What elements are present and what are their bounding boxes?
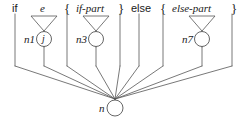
node-label-n: n	[99, 103, 105, 114]
triangle-else-part	[189, 16, 215, 31]
edge-drop-else-part	[115, 66, 202, 99]
node-inner-label-n1: j	[42, 34, 45, 44]
edge-drop-brace-4	[115, 66, 232, 99]
nonterminal-triangles	[31, 16, 215, 31]
node-circle-n	[107, 100, 123, 116]
top-label-brace-close-1: }	[118, 2, 124, 15]
edge-drop-brace-2	[115, 66, 120, 99]
converging-edge-lines	[15, 66, 232, 99]
top-label-if-keyword: if	[12, 3, 18, 14]
top-label-else-part: else-part	[172, 3, 211, 14]
top-label-brace-close-2: }	[231, 2, 237, 15]
node-circle-n7	[195, 32, 210, 47]
edge-drop-brace-1	[67, 66, 115, 99]
triangle-if-part	[83, 16, 109, 31]
top-label-brace-open-2: {	[160, 2, 166, 15]
diagram-svg	[0, 0, 248, 122]
edge-drop-if	[15, 66, 115, 99]
node-circle-n3	[89, 32, 104, 47]
edge-drop-e	[44, 66, 115, 99]
node-stem-lines	[44, 31, 202, 100]
top-label-brace-open-1: {	[64, 2, 70, 15]
top-label-if-part: if-part	[76, 3, 104, 14]
triangle-e	[31, 16, 57, 31]
node-label-n1: n1	[24, 34, 35, 45]
top-label-e-nonterminal: e	[40, 3, 45, 14]
top-label-else-keyword: else	[131, 3, 151, 14]
node-label-n3: n3	[76, 34, 87, 45]
node-label-n7: n7	[182, 34, 193, 45]
edge-drop-brace-3	[115, 66, 163, 99]
figure-canvas: ife{if-part}else{else-part} n1n3n7n j	[0, 0, 248, 122]
